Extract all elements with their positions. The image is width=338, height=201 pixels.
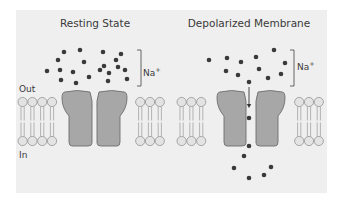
sodium-ion <box>102 64 107 69</box>
sodium-ion <box>266 76 271 81</box>
membrane-diagram: Resting State Na+ Depolarized Membrane N… <box>0 0 338 201</box>
sodium-ion <box>283 61 288 66</box>
sodium-ion <box>254 55 259 60</box>
sodium-ion <box>101 50 106 55</box>
sodium-ion <box>56 58 61 63</box>
sodium-ion <box>58 68 63 73</box>
sodium-ion <box>272 48 277 53</box>
sodium-ion <box>78 48 83 53</box>
sodium-ion <box>114 58 119 63</box>
sodium-ion <box>87 75 92 80</box>
sodium-ion <box>59 78 64 83</box>
sodium-ion <box>279 72 284 77</box>
sodium-ion <box>106 79 111 84</box>
sodium-ion <box>207 58 212 63</box>
sodium-ion <box>224 69 229 74</box>
sodium-ion <box>74 81 79 86</box>
sodium-ion <box>247 176 252 181</box>
panel-title-depolarized: Depolarized Membrane <box>188 17 310 29</box>
sodium-ion <box>239 60 244 65</box>
sodium-ion <box>242 154 247 159</box>
sodium-ion <box>236 73 241 78</box>
panel-title-resting: Resting State <box>60 17 130 29</box>
sodium-ion <box>247 116 252 121</box>
sodium-ion <box>119 52 124 57</box>
diagram-canvas: Resting State Na+ Depolarized Membrane N… <box>0 0 338 201</box>
sodium-ion <box>123 68 128 73</box>
sodium-ion <box>262 173 267 178</box>
sodium-ion <box>62 50 67 55</box>
sodium-ion <box>45 69 50 74</box>
sodium-ion <box>257 67 262 72</box>
sodium-ion <box>247 80 252 85</box>
sodium-ion <box>107 71 112 76</box>
outside-label: Out <box>19 84 36 94</box>
sodium-ion <box>98 68 103 73</box>
sodium-ion <box>82 60 87 65</box>
inside-label: In <box>19 150 27 160</box>
sodium-ion <box>269 165 274 170</box>
sodium-ion <box>125 77 130 82</box>
sodium-ion <box>116 65 121 70</box>
sodium-ion <box>71 70 76 75</box>
sodium-ion <box>247 144 252 149</box>
sodium-ion <box>232 166 237 171</box>
sodium-ion <box>225 56 230 61</box>
